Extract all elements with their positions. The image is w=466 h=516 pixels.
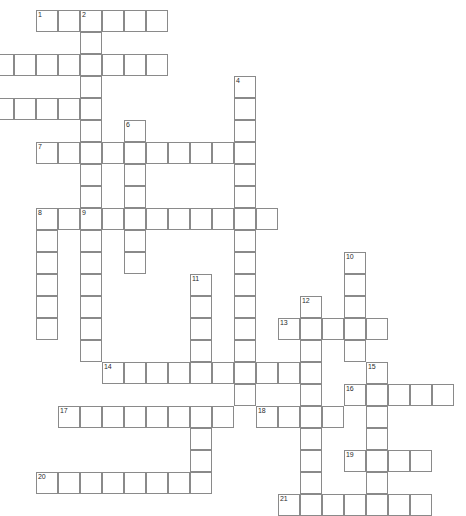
crossword-cell[interactable] [256,208,278,230]
crossword-cell[interactable] [58,472,80,494]
crossword-cell[interactable] [300,384,322,406]
crossword-cell[interactable] [212,406,234,428]
crossword-cell[interactable] [388,494,410,516]
crossword-cell[interactable] [36,296,58,318]
crossword-cell[interactable] [366,384,388,406]
crossword-cell[interactable] [322,406,344,428]
crossword-cell[interactable] [80,120,102,142]
crossword-cell[interactable] [80,186,102,208]
crossword-cell[interactable] [36,472,58,494]
crossword-cell[interactable] [58,10,80,32]
crossword-cell[interactable] [278,362,300,384]
crossword-cell[interactable] [300,494,322,516]
crossword-cell[interactable] [212,208,234,230]
crossword-cell[interactable] [58,54,80,76]
crossword-cell[interactable] [344,252,366,274]
crossword-cell[interactable] [234,362,256,384]
crossword-cell[interactable] [80,406,102,428]
crossword-cell[interactable] [102,208,124,230]
crossword-cell[interactable] [344,494,366,516]
crossword-cell[interactable] [344,274,366,296]
crossword-cell[interactable] [432,384,454,406]
crossword-cell[interactable] [190,318,212,340]
crossword-cell[interactable] [278,406,300,428]
crossword-cell[interactable] [300,340,322,362]
crossword-cell[interactable] [146,472,168,494]
crossword-cell[interactable] [234,252,256,274]
crossword-cell[interactable] [124,10,146,32]
crossword-cell[interactable] [80,340,102,362]
crossword-cell[interactable] [80,230,102,252]
crossword-cell[interactable] [344,384,366,406]
crossword-cell[interactable] [234,120,256,142]
crossword-cell[interactable] [190,142,212,164]
crossword-cell[interactable] [190,450,212,472]
crossword-cell[interactable] [234,186,256,208]
crossword-cell[interactable] [124,252,146,274]
crossword-cell[interactable] [146,10,168,32]
crossword-cell[interactable] [0,98,14,120]
crossword-cell[interactable] [190,362,212,384]
crossword-cell[interactable] [14,98,36,120]
crossword-cell[interactable] [124,208,146,230]
crossword-cell[interactable] [36,274,58,296]
crossword-cell[interactable] [366,472,388,494]
crossword-cell[interactable] [124,362,146,384]
crossword-cell[interactable] [80,318,102,340]
crossword-cell[interactable] [36,230,58,252]
crossword-cell[interactable] [300,362,322,384]
crossword-cell[interactable] [410,450,432,472]
crossword-cell[interactable] [0,54,14,76]
crossword-cell[interactable] [256,406,278,428]
crossword-cell[interactable] [168,472,190,494]
crossword-cell[interactable] [388,384,410,406]
crossword-cell[interactable] [366,406,388,428]
crossword-cell[interactable] [190,406,212,428]
crossword-cell[interactable] [80,472,102,494]
crossword-cell[interactable] [102,142,124,164]
crossword-cell[interactable] [36,208,58,230]
crossword-cell[interactable] [58,98,80,120]
crossword-cell[interactable] [124,406,146,428]
crossword-cell[interactable] [146,362,168,384]
crossword-cell[interactable] [80,142,102,164]
crossword-cell[interactable] [190,208,212,230]
crossword-cell[interactable] [124,54,146,76]
crossword-cell[interactable] [366,362,388,384]
crossword-cell[interactable] [344,296,366,318]
crossword-cell[interactable] [410,384,432,406]
crossword-cell[interactable] [58,406,80,428]
crossword-cell[interactable] [234,208,256,230]
crossword-cell[interactable] [322,494,344,516]
crossword-cell[interactable] [124,142,146,164]
crossword-cell[interactable] [36,54,58,76]
crossword-cell[interactable] [190,472,212,494]
crossword-cell[interactable] [168,142,190,164]
crossword-cell[interactable] [212,142,234,164]
crossword-cell[interactable] [146,208,168,230]
crossword-cell[interactable] [300,472,322,494]
crossword-cell[interactable] [80,296,102,318]
crossword-cell[interactable] [102,362,124,384]
crossword-cell[interactable] [14,54,36,76]
crossword-cell[interactable] [256,362,278,384]
crossword-cell[interactable] [278,494,300,516]
crossword-cell[interactable] [366,450,388,472]
crossword-cell[interactable] [234,98,256,120]
crossword-cell[interactable] [300,296,322,318]
crossword-cell[interactable] [146,54,168,76]
crossword-cell[interactable] [300,406,322,428]
crossword-cell[interactable] [344,318,366,340]
crossword-cell[interactable] [80,98,102,120]
crossword-cell[interactable] [80,252,102,274]
crossword-cell[interactable] [190,274,212,296]
crossword-cell[interactable] [234,230,256,252]
crossword-cell[interactable] [366,494,388,516]
crossword-cell[interactable] [212,362,234,384]
crossword-cell[interactable] [36,98,58,120]
crossword-cell[interactable] [102,10,124,32]
crossword-cell[interactable] [80,32,102,54]
crossword-cell[interactable] [124,120,146,142]
crossword-cell[interactable] [80,10,102,32]
crossword-cell[interactable] [102,472,124,494]
